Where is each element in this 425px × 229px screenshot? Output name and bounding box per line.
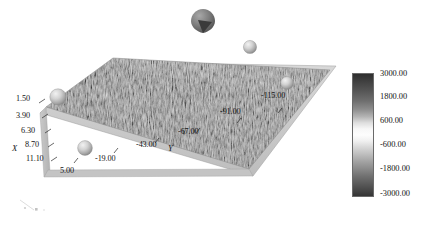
colorbar-tick-6: -3000.00 [380,190,410,198]
x-tick-label-1: 1.50 [16,95,30,103]
y-tick-label-1: 5.00 [60,167,74,175]
sphere-marker-3[interactable] [243,40,256,53]
scan-artifact [14,196,60,218]
x-tick-label-2: 3.90 [16,112,30,120]
colorbar-tick-1: 3000.00 [380,70,407,78]
colorbar-gradient[interactable] [352,73,374,197]
colorbar-tick-2: 1800.00 [380,93,407,101]
colorbar-tick-5: -1800.00 [380,165,410,173]
y-axis-name: Y [168,143,173,153]
colorbar[interactable]: 3000.00 1800.00 600.00 -600.00 -1800.00 … [352,73,422,197]
y-tick-label-2: -19.00 [95,155,116,163]
x-tick-label-4: 8.70 [25,141,39,149]
cone-marker-floating[interactable] [191,9,215,33]
y-tick-label-6: -115.00 [261,92,285,100]
colorbar-tick-4: -600.00 [380,141,406,149]
visualization-root: 1.50 3.90 6.30 8.70 11.10 X 5.00 -19.00 … [0,0,425,229]
colorbar-tick-3: 600.00 [380,117,403,125]
sphere-marker-4[interactable] [281,77,294,90]
sphere-marker-1[interactable] [50,89,66,105]
x-tick-label-3: 6.30 [21,127,35,135]
y-tick-label-5: -91.00 [220,108,241,116]
y-tick-label-4: -67.00 [178,128,199,136]
y-tick-label-3: -43.00 [136,141,157,149]
x-axis-name: X [12,143,17,153]
x-tick-label-5: 11.10 [26,155,44,163]
sphere-marker-2[interactable] [78,141,93,156]
